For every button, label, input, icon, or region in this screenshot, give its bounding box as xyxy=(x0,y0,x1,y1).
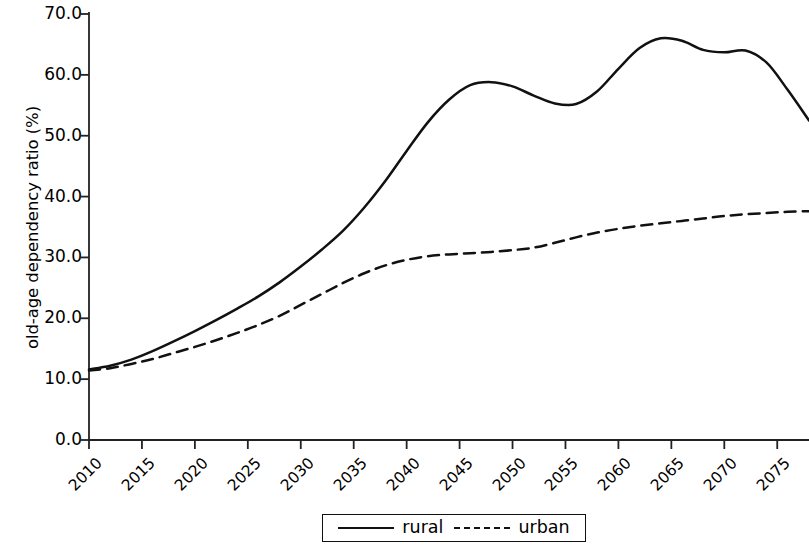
chart-figure: old-age dependency ratio (%) 0.010.020.0… xyxy=(0,0,809,546)
legend-entry-rural: rural xyxy=(338,519,443,537)
legend-entry-urban: urban xyxy=(454,519,569,537)
legend-line-solid-icon xyxy=(338,527,394,529)
axis-lines xyxy=(89,12,809,440)
legend-label-rural: rural xyxy=(402,519,443,537)
legend-line-dashed-icon xyxy=(454,527,510,529)
y-axis-ticks xyxy=(80,14,89,440)
data-series xyxy=(89,38,809,371)
x-axis-ticks xyxy=(89,440,777,449)
series-line-rural xyxy=(89,38,809,369)
legend-label-urban: urban xyxy=(518,519,569,537)
chart-legend: rural urban xyxy=(322,514,586,542)
series-line-urban xyxy=(89,211,809,370)
